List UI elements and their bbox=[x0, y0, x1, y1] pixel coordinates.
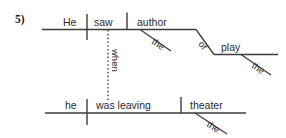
word-subject-he: He bbox=[63, 16, 77, 28]
word-preposition-of: of bbox=[196, 39, 210, 52]
word-subordinate-object-theater: theater bbox=[190, 99, 223, 111]
item-number: 5) bbox=[15, 13, 25, 26]
sentence-diagram: 5) He saw author the of play the when he… bbox=[0, 0, 286, 138]
word-verb-saw: saw bbox=[94, 16, 113, 28]
word-prep-object-play: play bbox=[221, 41, 241, 53]
word-object-author: author bbox=[137, 16, 167, 28]
sentence-diagram-page: 5) He saw author the of play the when he… bbox=[0, 0, 286, 138]
word-subordinate-verb-was-leaving: was leaving bbox=[95, 99, 151, 111]
word-subordinate-subject-he: he bbox=[65, 99, 77, 111]
word-connector-when: when bbox=[110, 48, 121, 72]
